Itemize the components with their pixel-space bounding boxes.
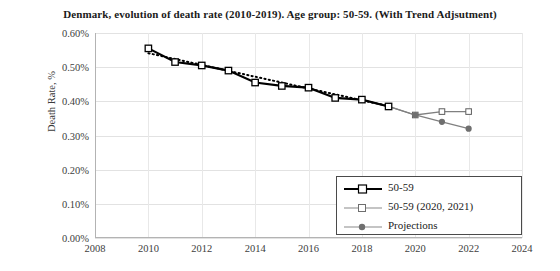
data-point-marker [466,126,472,132]
legend-item-main: 50-59 [337,177,521,196]
chart-container: Denmark, evolution of death rate (2010-2… [0,0,560,271]
x-tick-label: 2010 [138,243,159,254]
x-tick-label: 2016 [298,243,319,254]
data-point-marker [225,67,231,73]
series-projections [385,103,471,131]
data-point-marker [145,45,151,51]
x-tick-label: 2024 [512,243,533,254]
x-tick-label: 2014 [245,243,266,254]
legend-item-2020-2021: 50-59 (2020, 2021) [337,196,521,215]
legend-label-main: 50-59 [388,181,414,193]
legend-swatch-2020-2021 [343,200,383,212]
series-50-59 [145,45,392,109]
chart-title: Denmark, evolution of death rate (2010-2… [0,8,560,20]
data-point-marker [412,112,418,118]
data-point-marker [252,79,258,85]
x-tick-label: 2022 [458,243,479,254]
y-tick-label: 0.30% [62,130,89,141]
legend-swatch-projections [343,219,383,231]
data-point-marker [359,96,365,102]
y-tick-label: 0.10% [62,198,89,209]
y-tick-label: 0.40% [62,96,89,107]
data-point-marker [332,95,338,101]
data-point-marker [466,109,472,115]
y-tick-label: 0.00% [62,233,89,244]
data-point-marker [305,84,311,90]
gridline-vertical [522,33,523,238]
series-50-59-2020-2021 [386,104,472,118]
gridline-horizontal [95,238,522,239]
x-tick-label: 2012 [191,243,212,254]
data-point-marker [439,119,445,125]
x-tick-label: 2008 [85,243,106,254]
legend-label-projections: Projections [388,219,438,231]
x-tick-label: 2020 [405,243,426,254]
y-tick-label: 0.20% [62,164,89,175]
legend-item-projections: Projections [337,215,521,234]
y-tick-label: 0.50% [62,62,89,73]
data-point-marker [279,83,285,89]
x-tick-label: 2018 [351,243,372,254]
data-point-marker [385,103,391,109]
legend-swatch-main [343,181,383,193]
y-tick-label: 0.60% [62,28,89,39]
y-axis-title: Death Rate, % [46,57,57,147]
data-point-marker [439,109,445,115]
chart-legend: 50-59 50-59 (2020, 2021) Projections [336,176,522,235]
legend-label-2020-2021: 50-59 (2020, 2021) [388,200,473,212]
data-point-marker [199,62,205,68]
data-point-marker [172,59,178,65]
